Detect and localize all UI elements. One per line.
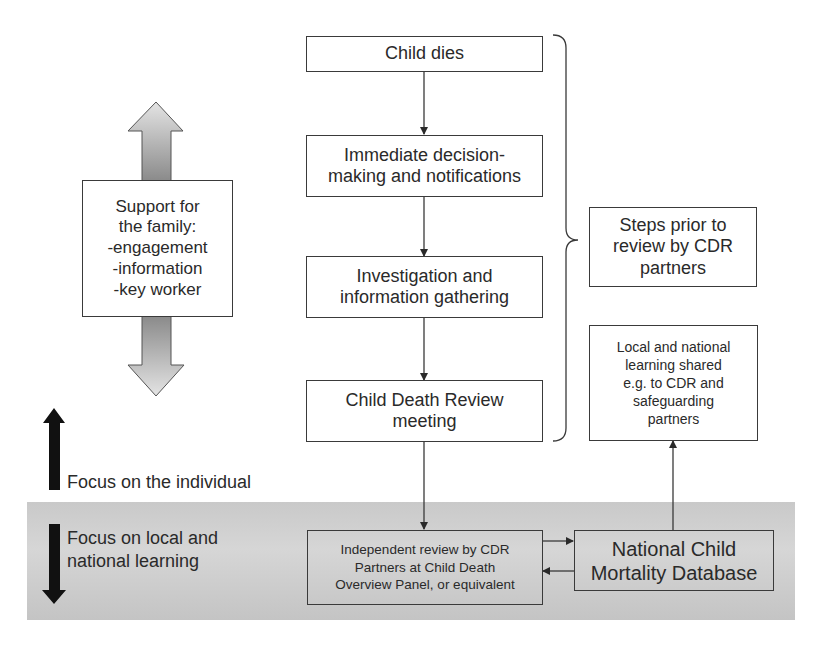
steps-text: partners	[640, 258, 706, 280]
review-text: Independent review by CDR	[341, 541, 510, 559]
step-text: Immediate decision-	[344, 145, 505, 166]
step-text: Child Death Review	[345, 390, 503, 411]
learning-text: learning shared	[625, 356, 722, 374]
independent-review-box: Independent review by CDR Partners at Ch…	[307, 530, 543, 605]
focus-text: national learning	[67, 550, 218, 573]
steps-text: Steps prior to	[619, 215, 726, 237]
step-text: meeting	[392, 411, 456, 432]
step-text: Child dies	[385, 43, 464, 64]
support-text: the family:	[119, 217, 196, 238]
focus-learning-down-arrow	[42, 524, 66, 604]
database-text: National Child	[612, 537, 737, 561]
support-text: -information	[113, 259, 203, 280]
support-text: -key worker	[114, 280, 202, 301]
step-text: Investigation and	[356, 266, 492, 287]
learning-text: safeguarding	[633, 392, 714, 410]
step-text: making and notifications	[328, 166, 521, 187]
learning-shared-box: Local and national learning shared e.g. …	[589, 325, 758, 441]
learning-text: e.g. to CDR and	[623, 374, 723, 392]
step-investigation: Investigation and information gathering	[306, 256, 543, 318]
steps-text: review by CDR	[613, 236, 733, 258]
learning-text: Local and national	[617, 338, 731, 356]
step-child-dies: Child dies	[306, 36, 543, 72]
family-support-down-arrow	[128, 316, 184, 396]
review-text: Partners at Child Death	[355, 559, 495, 577]
step-immediate-decision: Immediate decision- making and notificat…	[306, 135, 543, 197]
review-text: Overview Panel, or equivalent	[335, 576, 514, 594]
learning-text: partners	[648, 410, 699, 428]
support-text: -engagement	[107, 238, 207, 259]
step-cdr-meeting: Child Death Review meeting	[306, 380, 543, 442]
focus-text: Focus on the individual	[67, 472, 251, 492]
focus-learning-label: Focus on local and national learning	[67, 527, 218, 572]
database-text: Mortality Database	[591, 561, 758, 585]
family-support-up-arrow	[128, 102, 183, 181]
focus-text: Focus on local and	[67, 527, 218, 550]
steps-brace	[553, 35, 578, 441]
focus-individual-label: Focus on the individual	[67, 472, 251, 494]
national-database-box: National Child Mortality Database	[574, 530, 774, 591]
step-text: information gathering	[340, 287, 509, 308]
steps-prior-box: Steps prior to review by CDR partners	[589, 207, 757, 287]
support-text: Support for	[115, 197, 199, 218]
family-support-box: Support for the family: -engagement -inf…	[82, 180, 233, 317]
focus-individual-up-arrow	[43, 408, 65, 490]
